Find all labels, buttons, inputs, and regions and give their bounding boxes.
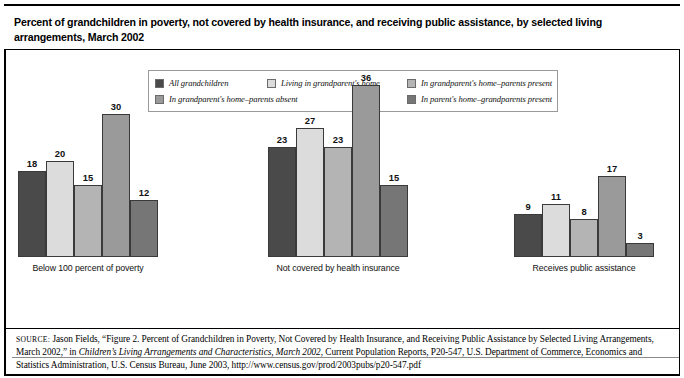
page-title: Percent of grandchildren in poverty, not… [14, 15, 666, 44]
bar[interactable] [18, 171, 46, 257]
bar-value-label: 27 [296, 115, 324, 126]
bar[interactable] [102, 114, 130, 257]
bar-cluster: 2327233615Not covered by health insuranc… [268, 67, 408, 257]
bar-value-label: 36 [352, 72, 380, 83]
source-note: SOURCE: Jason Fields, “Figure 2. Percent… [16, 333, 676, 371]
bar-item[interactable]: 23 [268, 67, 296, 257]
bar-value-label: 30 [102, 101, 130, 112]
bar-group: 1820153012 [18, 67, 158, 257]
bar-value-label: 23 [268, 134, 296, 145]
source-box: SOURCE: Jason Fields, “Figure 2. Percent… [4, 328, 680, 376]
bar-item[interactable]: 15 [380, 67, 408, 257]
bar[interactable] [542, 204, 570, 257]
bar[interactable] [74, 185, 102, 257]
bar-item[interactable]: 18 [18, 67, 46, 257]
bar-value-label: 23 [324, 134, 352, 145]
bar-group: 9118173 [514, 67, 654, 257]
bar-cluster: 1820153012Below 100 percent of poverty [18, 67, 158, 257]
bar-value-label: 9 [514, 201, 542, 212]
bar[interactable] [626, 243, 654, 257]
bar[interactable] [514, 214, 542, 257]
bar-value-label: 3 [626, 230, 654, 241]
bar-group: 2327233615 [268, 67, 408, 257]
bar-item[interactable]: 17 [598, 67, 626, 257]
bar[interactable] [570, 219, 598, 257]
source-text-italic: Children’s Living Arrangements and Chara… [79, 347, 321, 357]
bar-item[interactable]: 15 [74, 67, 102, 257]
bar-value-label: 11 [542, 191, 570, 202]
bar-item[interactable]: 30 [102, 67, 130, 257]
bar-item[interactable]: 3 [626, 67, 654, 257]
bar[interactable] [268, 147, 296, 257]
cluster-axis-label: Not covered by health insurance [276, 263, 399, 273]
bar[interactable] [130, 200, 158, 257]
bar-item[interactable]: 27 [296, 67, 324, 257]
bar[interactable] [352, 85, 380, 257]
title-box: Percent of grandchildren in poverty, not… [4, 4, 680, 50]
source-label: SOURCE: [16, 335, 50, 344]
bar-item[interactable]: 23 [324, 67, 352, 257]
bar[interactable] [324, 147, 352, 257]
cluster-axis-label: Below 100 percent of poverty [32, 263, 143, 273]
bar-item[interactable]: 20 [46, 67, 74, 257]
bar[interactable] [46, 161, 74, 257]
bar[interactable] [380, 185, 408, 257]
bar-value-label: 15 [74, 172, 102, 183]
bar-cluster: 9118173Receives public assistance [514, 67, 654, 257]
bar-chart: 1820153012Below 100 percent of poverty23… [4, 50, 680, 328]
bar-item[interactable]: 11 [542, 67, 570, 257]
bar-value-label: 18 [18, 158, 46, 169]
bar-value-label: 15 [380, 172, 408, 183]
bar-item[interactable]: 9 [514, 67, 542, 257]
bar-value-label: 8 [570, 206, 598, 217]
bar-item[interactable]: 8 [570, 67, 598, 257]
bar-value-label: 12 [130, 187, 158, 198]
bar[interactable] [598, 176, 626, 257]
bar-item[interactable]: 36 [352, 67, 380, 257]
cluster-axis-label: Receives public assistance [532, 263, 635, 273]
bar-value-label: 17 [598, 163, 626, 174]
bar[interactable] [296, 128, 324, 257]
bar-value-label: 20 [46, 148, 74, 159]
chart-page: Percent of grandchildren in poverty, not… [0, 0, 684, 378]
bar-item[interactable]: 12 [130, 67, 158, 257]
